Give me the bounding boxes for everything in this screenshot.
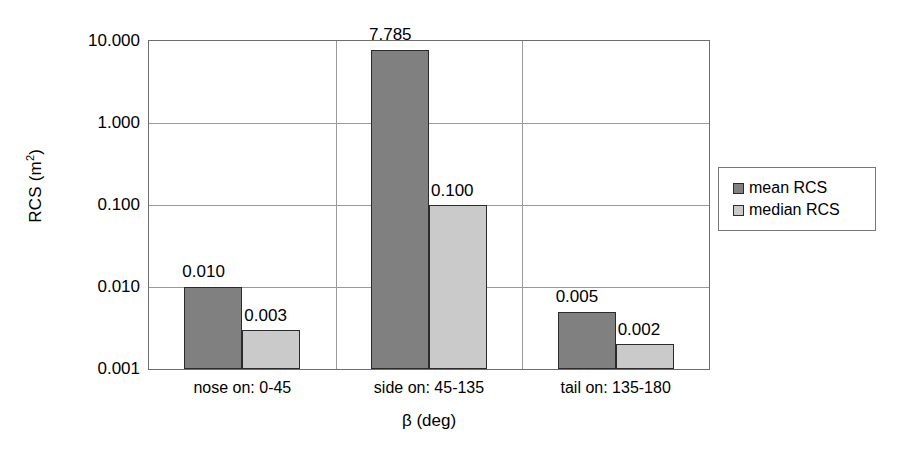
- legend-swatch-median-rcs: [733, 205, 744, 216]
- x-category-label-1: side on: 45-135: [374, 379, 484, 397]
- bar-value-label-median-0: 0.003: [244, 306, 287, 326]
- bar-median-2[interactable]: [616, 344, 674, 369]
- y-axis-title-exponent: 2: [24, 155, 36, 161]
- y-tick-label-0.100: 0.100: [97, 195, 140, 215]
- bar-value-label-median-2: 0.002: [618, 320, 661, 340]
- y-tick-label-0.001: 0.001: [97, 359, 140, 379]
- category-separator-1: [336, 41, 337, 369]
- legend-label-mean-rcs: mean RCS: [749, 179, 827, 197]
- bar-median-1[interactable]: [429, 205, 487, 369]
- x-axis-title: β (deg): [148, 411, 710, 431]
- y-axis-title: RCS (m2): [24, 106, 46, 266]
- y-axis-title-base: RCS (m: [26, 161, 45, 223]
- plot-area: 0.0010.0100.1001.00010.0000.0100.003nose…: [148, 40, 710, 370]
- bar-value-label-median-1: 0.100: [431, 181, 474, 201]
- gridline-y-1.000: [149, 123, 709, 124]
- legend-label-median-rcs: median RCS: [749, 201, 840, 219]
- bar-value-label-mean-2: 0.005: [556, 287, 599, 307]
- y-tick-label-0.010: 0.010: [97, 277, 140, 297]
- rcs-bar-chart-figure: RCS (m2) 0.0010.0100.1001.00010.0000.010…: [0, 0, 915, 460]
- chart-legend: mean RCS median RCS: [718, 167, 876, 231]
- y-tick-label-10.000: 10.000: [88, 31, 140, 51]
- bar-mean-1[interactable]: [371, 50, 429, 369]
- category-separator-2: [522, 41, 523, 369]
- legend-item-median-rcs[interactable]: median RCS: [733, 199, 875, 221]
- legend-item-mean-rcs[interactable]: mean RCS: [733, 177, 875, 199]
- legend-swatch-mean-rcs: [733, 183, 744, 194]
- x-category-label-2: tail on: 135-180: [561, 379, 671, 397]
- y-axis-title-tail: ): [26, 149, 45, 155]
- bar-mean-2[interactable]: [558, 312, 616, 369]
- bar-median-0[interactable]: [242, 330, 300, 369]
- bar-value-label-mean-0: 0.010: [182, 262, 225, 282]
- bar-value-label-mean-1: 7.785: [369, 25, 412, 45]
- y-tick-label-1.000: 1.000: [97, 113, 140, 133]
- x-category-label-0: nose on: 0-45: [193, 379, 291, 397]
- bar-mean-0[interactable]: [184, 287, 242, 369]
